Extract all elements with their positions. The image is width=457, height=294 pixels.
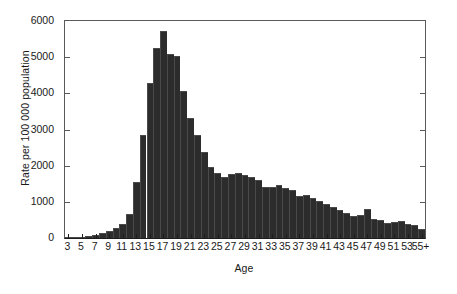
- y-tick-mark: [65, 166, 70, 167]
- bar: [126, 214, 133, 238]
- y-tick-label: 6000: [6, 15, 54, 25]
- y-tick-mark-right: [420, 93, 425, 94]
- y-tick-mark-right: [420, 130, 425, 131]
- bar: [85, 236, 92, 238]
- bar: [214, 173, 221, 238]
- y-tick-mark-right: [420, 202, 425, 203]
- bar: [228, 174, 235, 238]
- x-tick-mark: [96, 234, 97, 238]
- bar: [133, 182, 140, 238]
- x-tick-mark: [191, 234, 192, 238]
- y-tick-label: 2000: [6, 160, 54, 170]
- x-tick-mark: [313, 234, 314, 238]
- bar: [221, 177, 228, 238]
- y-tick-mark-right: [420, 166, 425, 167]
- x-tick-mark: [123, 234, 124, 238]
- y-tick-mark-right: [420, 57, 425, 58]
- x-tick-mark: [259, 234, 260, 238]
- y-tick-label: 4000: [6, 87, 54, 97]
- x-axis-title: Age: [64, 262, 424, 274]
- y-tick-mark: [65, 57, 70, 58]
- bar: [147, 83, 154, 238]
- bar: [242, 175, 249, 238]
- bar: [113, 228, 120, 238]
- x-tick-mark: [136, 234, 137, 238]
- bar: [276, 185, 283, 238]
- x-tick-mark: [408, 234, 409, 238]
- bar: [99, 233, 106, 238]
- bar: [282, 188, 289, 238]
- bar: [323, 204, 330, 238]
- bar: [248, 177, 255, 238]
- bar: [316, 201, 323, 238]
- bar: [303, 195, 310, 238]
- x-tick-mark: [394, 234, 395, 238]
- x-tick-mark: [340, 234, 341, 238]
- bar: [255, 180, 262, 238]
- y-tick-label: 1000: [6, 196, 54, 206]
- bar: [201, 152, 208, 238]
- bar: [187, 118, 194, 238]
- x-tick-mark: [354, 234, 355, 238]
- x-tick-mark: [367, 234, 368, 238]
- x-tick-mark: [299, 234, 300, 238]
- bar: [235, 173, 242, 238]
- bar: [398, 221, 405, 238]
- bar: [167, 54, 174, 238]
- x-tick-mark: [272, 234, 273, 238]
- x-tick-mark: [231, 234, 232, 238]
- chart-figure: Rate per 100 000 population 010002000300…: [0, 0, 457, 294]
- x-tick-mark: [109, 234, 110, 238]
- bar: [384, 223, 391, 238]
- bar: [269, 187, 276, 238]
- x-tick-mark: [204, 234, 205, 238]
- bar: [153, 48, 160, 238]
- bar: [72, 237, 79, 238]
- y-tick-label: 0: [6, 232, 54, 242]
- bar: [330, 207, 337, 238]
- bar: [371, 219, 378, 238]
- x-tick-mark: [381, 234, 382, 238]
- y-tick-mark: [65, 93, 70, 94]
- x-tick-mark: [163, 234, 164, 238]
- y-tick-label: 3000: [6, 124, 54, 134]
- x-tick-label: 55+: [408, 240, 434, 253]
- bar: [208, 167, 215, 238]
- bar: [262, 187, 269, 238]
- x-tick-mark: [422, 234, 423, 238]
- x-tick-mark: [327, 234, 328, 238]
- bar: [194, 135, 201, 238]
- bar-series: [65, 21, 425, 238]
- x-tick-mark: [68, 234, 69, 238]
- bar: [160, 31, 167, 238]
- bar: [140, 135, 147, 238]
- x-tick-mark: [218, 234, 219, 238]
- bar: [310, 198, 317, 239]
- plot-area: [64, 20, 426, 239]
- bar: [180, 91, 187, 238]
- bar: [289, 190, 296, 238]
- bar: [296, 196, 303, 238]
- y-tick-mark: [65, 130, 70, 131]
- x-tick-mark: [177, 234, 178, 238]
- y-tick-mark: [65, 202, 70, 203]
- x-tick-mark: [245, 234, 246, 238]
- x-axis-tick-labels: 3579111315171921232527293133353739414345…: [64, 240, 424, 256]
- bar: [343, 213, 350, 238]
- bar: [357, 215, 364, 238]
- y-axis-tick-labels: 0100020003000400050006000: [6, 0, 54, 294]
- x-tick-mark: [82, 234, 83, 238]
- bar: [174, 56, 181, 238]
- bar: [411, 225, 418, 238]
- y-tick-label: 5000: [6, 51, 54, 61]
- x-tick-mark: [150, 234, 151, 238]
- x-tick-mark: [286, 234, 287, 238]
